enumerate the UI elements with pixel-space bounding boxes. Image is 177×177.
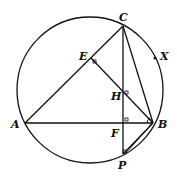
diagram-canvas: ABCEHFPX xyxy=(0,0,177,177)
circumcircle xyxy=(17,17,163,163)
angle-mark-B xyxy=(147,118,150,123)
label-B: B xyxy=(157,118,167,131)
label-A: A xyxy=(10,118,20,131)
segment-EB xyxy=(91,58,153,123)
geometry-diagram: ABCEHFPX xyxy=(0,0,177,177)
segment-CB xyxy=(123,26,153,123)
segment-AC xyxy=(25,26,123,123)
label-F: F xyxy=(110,127,120,140)
label-E: E xyxy=(78,50,88,63)
label-H: H xyxy=(110,90,122,103)
label-X: X xyxy=(159,50,169,63)
label-P: P xyxy=(117,159,127,172)
right-angle-mark-F xyxy=(125,118,128,121)
segment-BP-double xyxy=(124,125,151,155)
label-C: C xyxy=(119,11,128,24)
point-X-dot xyxy=(154,57,157,60)
